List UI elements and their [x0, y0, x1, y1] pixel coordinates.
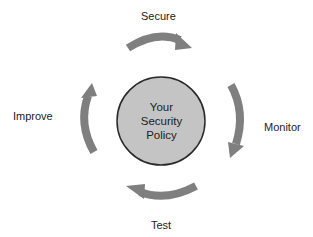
center-line-2: Security — [141, 114, 183, 128]
center-policy-label: Your Security Policy — [117, 76, 206, 166]
improve-arrow-icon — [81, 83, 97, 152]
center-line-3: Policy — [141, 128, 183, 142]
step-label-monitor: Monitor — [264, 121, 301, 133]
test-arrow-icon — [126, 184, 196, 199]
center-line-1: Your — [141, 100, 183, 114]
secure-arrow-icon — [128, 33, 192, 50]
step-label-secure: Secure — [141, 10, 176, 22]
monitor-arrow-icon — [228, 85, 244, 158]
step-label-test: Test — [151, 219, 171, 231]
step-label-improve: Improve — [13, 110, 53, 122]
security-cycle-diagram: Your Security Policy Secure Monitor Test… — [0, 0, 313, 237]
